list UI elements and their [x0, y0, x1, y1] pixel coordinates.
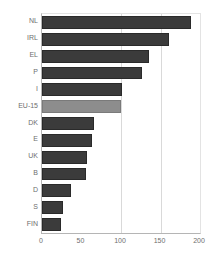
y-axis-label-NL: NL — [0, 17, 38, 25]
y-axis-label-FIN: FIN — [0, 220, 38, 228]
bar-row — [42, 182, 200, 199]
y-axis-label-P: P — [0, 68, 38, 76]
y-axis-label-DK: DK — [0, 119, 38, 127]
bar-row — [42, 115, 200, 132]
bar-row — [42, 65, 200, 82]
bar-rows — [42, 14, 200, 233]
bar-E — [42, 134, 92, 147]
bar-row — [42, 132, 200, 149]
bar-row — [42, 81, 200, 98]
y-axis-label-EL: EL — [0, 51, 38, 59]
y-axis-label-IRL: IRL — [0, 34, 38, 42]
bar-FIN — [42, 218, 61, 231]
bar-row — [42, 31, 200, 48]
bar-NL — [42, 16, 191, 29]
bar-B — [42, 168, 86, 181]
bar-row — [42, 166, 200, 183]
plot-area — [41, 13, 201, 234]
y-axis-label-EU-15: EU-15 — [0, 102, 38, 110]
bar-I — [42, 83, 122, 96]
x-axis-tick-200: 200 — [193, 236, 205, 246]
y-axis-label-E: E — [0, 135, 38, 143]
y-axis-label-UK: UK — [0, 152, 38, 160]
bar-row — [42, 149, 200, 166]
bar-row — [42, 14, 200, 31]
y-axis-category-labels: NLIRLELPIEU-15DKEUKBDSFIN — [0, 13, 38, 234]
bar-chart-figure: NLIRLELPIEU-15DKEUKBDSFIN 050100150200 — [0, 0, 211, 256]
x-axis-tick-100: 100 — [114, 236, 126, 246]
bar-P — [42, 67, 142, 80]
y-axis-label-B: B — [0, 169, 38, 177]
bar-row — [42, 98, 200, 115]
y-axis-label-I: I — [0, 85, 38, 93]
bar-row — [42, 48, 200, 65]
bar-IRL — [42, 33, 169, 46]
x-axis-tick-0: 0 — [39, 236, 43, 246]
y-axis-label-S: S — [0, 203, 38, 211]
x-axis-tick-50: 50 — [77, 236, 85, 246]
bar-row — [42, 199, 200, 216]
x-axis-tick-150: 150 — [154, 236, 166, 246]
bar-DK — [42, 117, 94, 130]
bar-row — [42, 216, 200, 233]
bar-EU-15 — [42, 100, 121, 113]
bar-S — [42, 201, 63, 214]
bar-UK — [42, 151, 87, 164]
y-axis-label-D: D — [0, 186, 38, 194]
bar-EL — [42, 50, 149, 63]
chart-title — [40, 0, 180, 5]
x-axis-tick-labels: 050100150200 — [41, 236, 201, 248]
bar-D — [42, 184, 71, 197]
